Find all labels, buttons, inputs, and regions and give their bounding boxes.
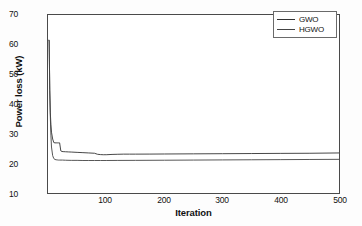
legend-label: HGWO	[299, 26, 324, 34]
x-tick-label: 500	[325, 196, 355, 205]
x-tick-label: 300	[207, 196, 237, 205]
x-tick-label: 100	[90, 196, 120, 205]
y-tick-label: 20	[0, 160, 18, 169]
y-tick-label: 70	[0, 10, 18, 19]
legend-line-icon	[277, 19, 295, 20]
series-line-gwo	[49, 40, 339, 155]
plot-area	[47, 14, 340, 194]
x-tick-label: 400	[266, 196, 296, 205]
x-tick-label: 200	[149, 196, 179, 205]
legend: GWO HGWO	[273, 11, 337, 38]
legend-item-hgwo: HGWO	[277, 25, 333, 34]
x-axis-label: Iteration	[47, 207, 340, 218]
legend-line-icon	[277, 29, 295, 30]
y-axis-label: Power loss (kW)	[13, 28, 24, 156]
y-tick-label: 10	[0, 190, 18, 199]
series-line-hgwo	[49, 40, 339, 160]
legend-item-gwo: GWO	[277, 15, 333, 24]
legend-label: GWO	[299, 16, 318, 24]
series-lines	[48, 15, 339, 193]
figure-canvas: 70 60 50 40 30 20 10 100 200 300 400 500…	[0, 0, 362, 226]
